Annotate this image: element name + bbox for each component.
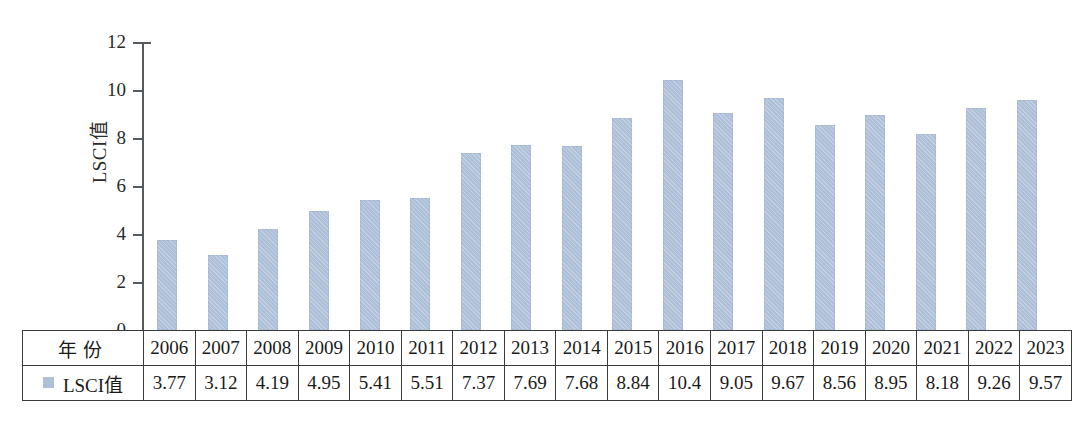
bar-slot bbox=[698, 42, 749, 330]
table-cell-year: 2012 bbox=[453, 331, 505, 366]
table-cell-value: 4.95 bbox=[298, 366, 350, 401]
y-axis-tick-label: 6 bbox=[86, 176, 126, 195]
table-cell-value: 9.67 bbox=[762, 366, 814, 401]
table-cell-year: 2010 bbox=[350, 331, 402, 366]
table-row-years: 年份 2006200720082009201020112012201320142… bbox=[23, 331, 1072, 366]
table-cell-year: 2014 bbox=[556, 331, 608, 366]
bar bbox=[258, 229, 278, 330]
table-cell-value: 7.37 bbox=[453, 366, 505, 401]
bar bbox=[764, 98, 784, 330]
table-cell-value: 10.4 bbox=[659, 366, 711, 401]
bar-slot bbox=[395, 42, 446, 330]
bar bbox=[360, 200, 380, 330]
y-axis-tick-label: 10 bbox=[86, 80, 126, 99]
y-axis-tick bbox=[133, 42, 142, 44]
table-cell-value: 9.57 bbox=[1020, 366, 1072, 401]
bar bbox=[916, 134, 936, 330]
legend-label: LSCI值 bbox=[63, 375, 123, 396]
table-cell-value: 5.51 bbox=[401, 366, 453, 401]
y-axis-tick-label: 4 bbox=[86, 224, 126, 243]
table-cell-year: 2006 bbox=[144, 331, 196, 366]
y-axis-tick bbox=[133, 282, 142, 284]
bar bbox=[461, 153, 481, 330]
table-cell-year: 2017 bbox=[711, 331, 763, 366]
table-cell-value: 8.84 bbox=[607, 366, 659, 401]
bar-slot bbox=[951, 42, 1002, 330]
bar bbox=[562, 146, 582, 330]
bar-slot bbox=[344, 42, 395, 330]
bar bbox=[309, 211, 329, 330]
y-axis-tick bbox=[133, 90, 142, 92]
table-cell-value: 9.05 bbox=[711, 366, 763, 401]
table-cell-year: 2016 bbox=[659, 331, 711, 366]
bar-slot bbox=[749, 42, 800, 330]
bar-slot bbox=[547, 42, 598, 330]
y-axis-tick bbox=[133, 186, 142, 188]
table-cell-year: 2022 bbox=[968, 331, 1020, 366]
bar-slot bbox=[496, 42, 547, 330]
legend-swatch-icon bbox=[43, 377, 54, 388]
bar-slot bbox=[243, 42, 294, 330]
bar-slot bbox=[294, 42, 345, 330]
table-cell-year: 2011 bbox=[401, 331, 453, 366]
bar-slot bbox=[799, 42, 850, 330]
bar bbox=[966, 108, 986, 330]
table-cell-value: 7.69 bbox=[504, 366, 556, 401]
table-cell-year: 2018 bbox=[762, 331, 814, 366]
y-axis-tick bbox=[133, 234, 142, 236]
y-axis-tick-label: 2 bbox=[86, 272, 126, 291]
bar bbox=[208, 255, 228, 330]
table-cell-value: 8.56 bbox=[814, 366, 866, 401]
bar bbox=[865, 115, 885, 330]
y-axis-tick-label: 8 bbox=[86, 128, 126, 147]
bar-slot bbox=[193, 42, 244, 330]
bar-series bbox=[142, 42, 1052, 330]
chart-figure: LSCI值 024681012 年份 200620072008200920102… bbox=[0, 0, 1075, 426]
bar-slot bbox=[900, 42, 951, 330]
table-cell-year: 2013 bbox=[504, 331, 556, 366]
table-cell-year: 2021 bbox=[917, 331, 969, 366]
table-cell-value: 8.95 bbox=[865, 366, 917, 401]
bar bbox=[713, 113, 733, 330]
table-cell-value: 7.68 bbox=[556, 366, 608, 401]
y-axis-tick-label: 12 bbox=[86, 32, 126, 51]
bar bbox=[157, 240, 177, 330]
table-cell-value: 3.12 bbox=[195, 366, 247, 401]
table-cell-year: 2015 bbox=[607, 331, 659, 366]
bar bbox=[511, 145, 531, 330]
bar-slot bbox=[142, 42, 193, 330]
table-cell-year: 2020 bbox=[865, 331, 917, 366]
bar bbox=[815, 125, 835, 330]
table-cell-year: 2007 bbox=[195, 331, 247, 366]
table-cell-year: 2008 bbox=[247, 331, 299, 366]
table-cell-value: 8.18 bbox=[917, 366, 969, 401]
row-header-lsci: LSCI值 bbox=[23, 366, 144, 401]
plot-area bbox=[142, 42, 1052, 330]
table-cell-year: 2023 bbox=[1020, 331, 1072, 366]
bar bbox=[1017, 100, 1037, 330]
bar bbox=[612, 118, 632, 330]
bar-slot bbox=[850, 42, 901, 330]
y-axis-tick bbox=[133, 138, 142, 140]
bar-slot bbox=[445, 42, 496, 330]
bar-slot bbox=[597, 42, 648, 330]
table-cell-value: 5.41 bbox=[350, 366, 402, 401]
table-cell-value: 9.26 bbox=[968, 366, 1020, 401]
table-cell-year: 2009 bbox=[298, 331, 350, 366]
data-table: 年份 2006200720082009201020112012201320142… bbox=[22, 330, 1072, 401]
bar-slot bbox=[1002, 42, 1053, 330]
table-cell-value: 4.19 bbox=[247, 366, 299, 401]
table-cell-value: 3.77 bbox=[144, 366, 196, 401]
table-cell-year: 2019 bbox=[814, 331, 866, 366]
bar bbox=[410, 198, 430, 330]
bar bbox=[663, 80, 683, 330]
row-header-year: 年份 bbox=[23, 331, 144, 366]
table-row-values: LSCI值 3.773.124.194.955.415.517.377.697.… bbox=[23, 366, 1072, 401]
bar-slot bbox=[648, 42, 699, 330]
